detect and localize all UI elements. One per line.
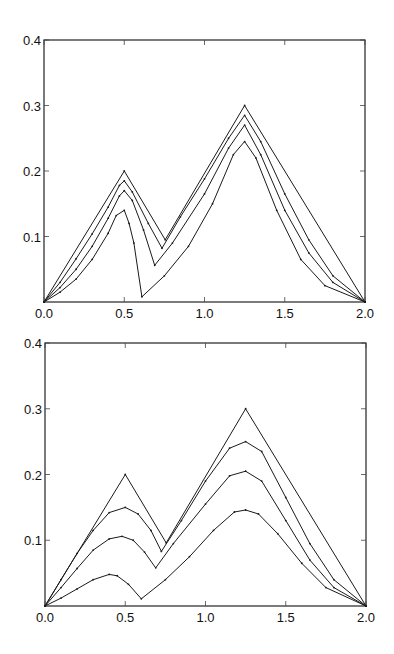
data-point-marker [154,264,156,266]
data-point-marker [204,178,206,180]
data-point-marker [173,543,175,545]
data-point-marker [143,229,145,231]
data-point-marker [147,223,149,225]
data-point-marker [244,114,246,116]
data-point-marker [91,245,93,247]
data-point-marker [163,275,165,277]
y-tick-label: 0.2 [24,468,42,483]
data-point-marker [284,209,286,211]
data-point-marker [123,190,125,192]
data-point-marker [155,567,157,569]
x-tick-label: 2.0 [356,306,374,321]
data-point-marker [301,562,303,564]
data-point-marker [108,512,110,514]
data-point-marker [75,278,77,280]
x-tick-label: 0.5 [116,610,134,625]
line-curve-4 [45,510,366,606]
x-tick-label: 1.5 [277,610,295,625]
data-point-marker [365,605,367,607]
data-point-marker [76,588,78,590]
data-point-marker [172,242,174,244]
data-point-marker [332,275,334,277]
top-chart-panel: 0.00.51.01.52.00.10.20.30.4 [23,33,374,321]
data-point-marker [204,193,206,195]
data-point-marker [128,223,130,225]
data-point-marker [245,509,247,511]
x-tick-label: 2.0 [357,610,375,625]
data-point-marker [244,105,246,107]
data-point-marker [300,259,302,261]
data-point-marker [131,200,133,202]
y-tick-label: 0.1 [24,533,42,548]
data-point-marker [325,587,327,589]
data-point-marker [59,287,61,289]
data-point-marker [284,193,286,195]
data-point-marker [308,252,310,254]
data-point-marker [244,124,246,126]
x-tick-label: 0.5 [115,306,133,321]
data-point-marker [309,543,311,545]
data-point-marker [229,447,231,449]
data-point-marker [333,579,335,581]
y-tick-label: 0.3 [23,99,41,114]
data-point-marker [161,247,163,249]
data-point-marker [60,587,62,589]
chart-figure: 0.00.51.01.52.00.10.20.30.4 0.00.51.01.5… [0,0,394,654]
data-point-marker [233,511,235,513]
y-tick-label: 0.4 [23,33,41,48]
line-curve-3 [44,125,365,302]
data-point-marker [59,281,61,283]
data-point-marker [119,195,121,197]
data-point-marker [91,233,93,235]
data-point-marker [43,301,45,303]
data-point-marker [128,583,130,585]
data-point-marker [309,559,311,561]
data-point-marker [285,520,287,522]
data-point-marker [244,141,246,143]
data-point-marker [44,605,46,607]
data-point-marker [332,281,334,283]
data-point-marker [75,258,77,260]
data-point-marker [364,301,366,303]
data-point-marker [144,551,146,553]
line-curve-2 [44,115,365,302]
data-point-marker [213,529,215,531]
data-point-marker [245,470,247,472]
data-point-marker [123,170,125,172]
data-point-marker [285,497,287,499]
data-point-marker [164,239,166,241]
plot-frame [45,343,366,606]
x-tick-label: 0.0 [35,306,53,321]
data-point-marker [92,529,94,531]
data-point-marker [232,154,234,156]
y-tick-label: 0.1 [23,230,41,245]
y-tick-label: 0.4 [24,336,42,351]
data-point-marker [245,408,247,410]
data-point-marker [228,147,230,149]
data-point-marker [123,209,125,211]
data-point-marker [92,549,94,551]
data-point-marker [121,535,123,537]
data-point-marker [261,451,263,453]
data-point-marker [308,239,310,241]
data-point-marker [115,215,117,217]
data-point-marker [150,529,152,531]
line-curve-4 [44,142,365,303]
data-point-marker [189,556,191,558]
data-point-marker [212,203,214,205]
data-point-marker [119,185,121,187]
data-point-marker [107,232,109,234]
data-point-marker [205,480,207,482]
data-point-marker [140,598,142,600]
data-point-marker [60,597,62,599]
bottom-chart-panel: 0.00.51.01.52.00.10.20.30.4 [24,336,375,625]
x-tick-label: 0.0 [36,610,54,625]
data-point-marker [188,245,190,247]
data-point-marker [133,242,135,244]
data-point-marker [59,291,61,293]
x-tick-label: 1.0 [196,610,214,625]
data-point-marker [60,579,62,581]
data-point-marker [124,506,126,508]
data-point-marker [229,475,231,477]
data-point-marker [141,296,143,298]
